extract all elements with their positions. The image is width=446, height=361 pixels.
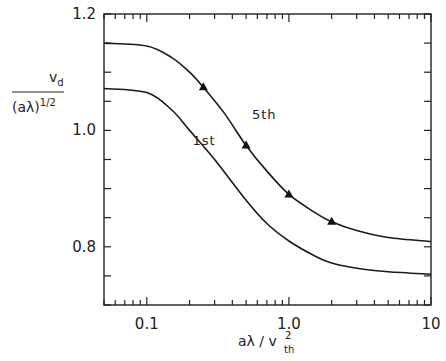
axis-ticks [104,14,431,305]
plot-frame [104,14,431,305]
y-tick-label: 1.2 [72,5,96,23]
x-tick-label: 10 [421,315,440,333]
x-axis-label: aλ / v 2 th [238,330,294,355]
curve-5th [104,43,431,242]
x-label-main: aλ / v [238,333,277,349]
chart-svg: 0.11.0101.21.00.8 5th1st vd (aλ)1/2 aλ /… [0,0,446,361]
y-axis-label: vd (aλ)1/2 [12,69,64,115]
y-tick-label: 0.8 [72,238,96,256]
x-tick-label: 0.1 [135,315,159,333]
curve-label-1st: 1st [193,133,216,148]
x-label-sup: 2 [285,330,291,341]
x-label-sub: th [284,344,294,355]
curve-label-5th: 5th [252,107,277,122]
tick-labels: 0.11.0101.21.00.8 [72,5,440,333]
y-label-numerator: vd [49,69,64,88]
y-label-denominator: (aλ)1/2 [12,97,56,115]
curves [104,43,431,274]
y-tick-label: 1.0 [72,121,96,139]
triangle-markers [199,82,336,224]
